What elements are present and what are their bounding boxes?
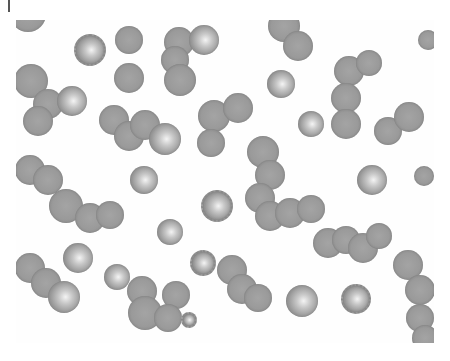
red-blood-cell — [414, 166, 434, 186]
red-blood-cell — [16, 20, 46, 32]
red-blood-cell — [223, 93, 253, 123]
red-blood-cell — [244, 284, 272, 312]
red-blood-cell — [394, 102, 424, 132]
red-blood-cell — [57, 86, 87, 116]
red-blood-cell — [114, 63, 144, 93]
red-blood-cell — [297, 195, 325, 223]
red-blood-cell — [356, 50, 382, 76]
red-blood-cell — [154, 304, 182, 332]
echinocyte-cell — [190, 250, 216, 276]
echinocyte-cell — [341, 284, 371, 314]
red-blood-cell — [267, 70, 295, 98]
red-blood-cell — [104, 264, 130, 290]
red-blood-cell — [48, 281, 80, 313]
echinocyte-cell — [181, 312, 197, 328]
red-blood-cell — [164, 64, 196, 96]
red-blood-cell — [96, 201, 124, 229]
red-blood-cell — [286, 285, 318, 317]
red-blood-cell — [197, 129, 225, 157]
red-blood-cell — [331, 109, 361, 139]
red-blood-cell — [298, 111, 324, 137]
image-edge-mark — [8, 0, 10, 12]
red-blood-cell — [149, 123, 181, 155]
red-blood-cell — [189, 25, 219, 55]
red-blood-cell — [366, 223, 392, 249]
red-blood-cell — [412, 325, 434, 343]
echinocyte-cell — [201, 190, 233, 222]
red-blood-cell — [418, 30, 434, 50]
red-blood-cell — [23, 106, 53, 136]
red-blood-cell — [405, 275, 434, 305]
red-blood-cell — [130, 166, 158, 194]
echinocyte-cell — [74, 34, 106, 66]
red-blood-cell — [283, 31, 313, 61]
red-blood-cell — [357, 165, 387, 195]
blood-smear-micrograph — [16, 20, 434, 343]
red-blood-cell — [115, 26, 143, 54]
red-blood-cell — [63, 243, 93, 273]
red-blood-cell — [157, 219, 183, 245]
